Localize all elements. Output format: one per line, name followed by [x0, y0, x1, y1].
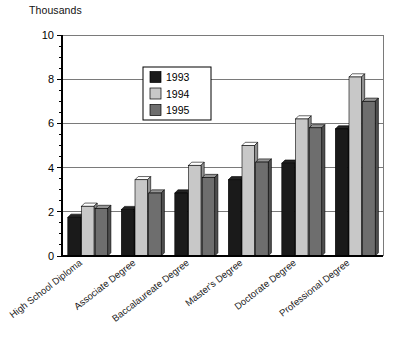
y-tick-label: 4 [48, 162, 54, 174]
legend-label-1995: 1995 [166, 104, 190, 116]
legend-swatch-1994 [150, 88, 161, 99]
legend-label-1994: 1994 [166, 88, 190, 100]
chart-legend: 199319941995 [143, 67, 211, 120]
y-tick-label: 6 [48, 117, 54, 129]
y-tick-label: 2 [48, 206, 54, 218]
legend-label-1993: 1993 [166, 71, 190, 83]
bar-chart: Thousands 0246810 199319941995 High Scho… [0, 0, 403, 350]
y-axis-ticks: 0246810 [42, 29, 62, 262]
legend-swatch-1995 [150, 105, 161, 116]
chart-svg: 0246810 199319941995 High School Diploma… [0, 0, 403, 350]
y-tick-label: 8 [48, 73, 54, 85]
x-axis-category-labels: High School DiplomaAssociate DegreeBacca… [7, 256, 351, 323]
y-tick-label: 0 [48, 250, 54, 262]
y-tick-label: 10 [42, 29, 54, 41]
bars-layer [68, 74, 379, 256]
x-category-label: High School Diploma [7, 256, 84, 320]
legend-swatch-1993 [150, 72, 161, 83]
